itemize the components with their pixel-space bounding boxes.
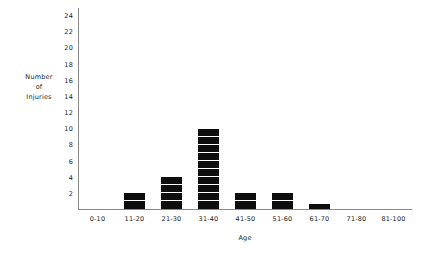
- bar-slot-31-40: [190, 8, 227, 209]
- x-axis-tick-71-80: 71-80: [338, 215, 375, 223]
- bar-unit: [235, 201, 256, 209]
- x-axis-line: [78, 209, 412, 210]
- bar-unit: [272, 201, 293, 209]
- bar-slot-81-100: [375, 8, 412, 209]
- bar-unit: [198, 161, 219, 169]
- x-axis-tick-11-20: 11-20: [116, 215, 153, 223]
- bar-21-30: [161, 177, 182, 209]
- x-axis-title: Age: [78, 234, 412, 242]
- y-axis-tick-2: 2: [69, 190, 73, 198]
- bar-unit: [235, 193, 256, 201]
- x-axis-tick-31-40: 31-40: [190, 215, 227, 223]
- bar-unit: [198, 137, 219, 145]
- bar-unit: [161, 193, 182, 201]
- y-axis-tick-18: 18: [64, 61, 73, 69]
- bar-unit: [309, 204, 330, 209]
- y-axis-tick-4: 4: [69, 174, 73, 182]
- bar-slot-51-60: [264, 8, 301, 209]
- y-axis-title-line-3: Injuries: [8, 92, 70, 102]
- bar-unit: [161, 201, 182, 209]
- x-axis-tick-labels: 0-1011-2021-3031-4041-5051-6061-7071-808…: [79, 215, 412, 223]
- bar-unit: [198, 145, 219, 153]
- bar-slot-71-80: [338, 8, 375, 209]
- y-axis-tick-24: 24: [64, 12, 73, 20]
- y-axis-tick-16: 16: [64, 77, 73, 85]
- bar-41-50: [235, 193, 256, 209]
- x-axis-tick-81-100: 81-100: [375, 215, 412, 223]
- y-axis-tick-10: 10: [64, 125, 73, 133]
- bar-unit: [198, 193, 219, 201]
- bar-unit: [272, 193, 293, 201]
- bar-slot-11-20: [116, 8, 153, 209]
- bar-unit: [198, 201, 219, 209]
- bar-unit: [198, 153, 219, 161]
- x-axis-tick-21-30: 21-30: [153, 215, 190, 223]
- bar-unit: [124, 201, 145, 209]
- bar-slot-41-50: [227, 8, 264, 209]
- bar-slot-61-70: [301, 8, 338, 209]
- y-axis-tick-8: 8: [69, 141, 73, 149]
- bar-unit: [161, 185, 182, 193]
- bar-series: [79, 8, 412, 209]
- bar-unit: [198, 177, 219, 185]
- x-axis-tick-41-50: 41-50: [227, 215, 264, 223]
- bar-51-60: [272, 193, 293, 209]
- y-axis-title-line-1: Number: [8, 72, 70, 82]
- x-axis-tick-61-70: 61-70: [301, 215, 338, 223]
- chart-figure: Number of Injuries 24681012141618202224 …: [0, 0, 425, 255]
- y-axis-title-line-2: of: [8, 82, 70, 92]
- bar-slot-0-10: [79, 8, 116, 209]
- bar-unit: [198, 169, 219, 177]
- y-axis-title: Number of Injuries: [8, 72, 70, 102]
- x-axis-tick-0-10: 0-10: [79, 215, 116, 223]
- y-axis-tick-6: 6: [69, 158, 73, 166]
- x-axis-tick-51-60: 51-60: [264, 215, 301, 223]
- bar-slot-21-30: [153, 8, 190, 209]
- bar-unit: [198, 129, 219, 137]
- bar-31-40: [198, 129, 219, 209]
- plot-area: 24681012141618202224: [78, 8, 412, 210]
- bar-unit: [198, 185, 219, 193]
- y-axis-tick-14: 14: [64, 93, 73, 101]
- bar-11-20: [124, 193, 145, 209]
- bar-unit: [161, 177, 182, 185]
- y-axis-tick-12: 12: [64, 109, 73, 117]
- y-axis-tick-22: 22: [64, 28, 73, 36]
- y-axis-tick-20: 20: [64, 44, 73, 52]
- bar-unit: [124, 193, 145, 201]
- bar-61-70: [309, 204, 330, 209]
